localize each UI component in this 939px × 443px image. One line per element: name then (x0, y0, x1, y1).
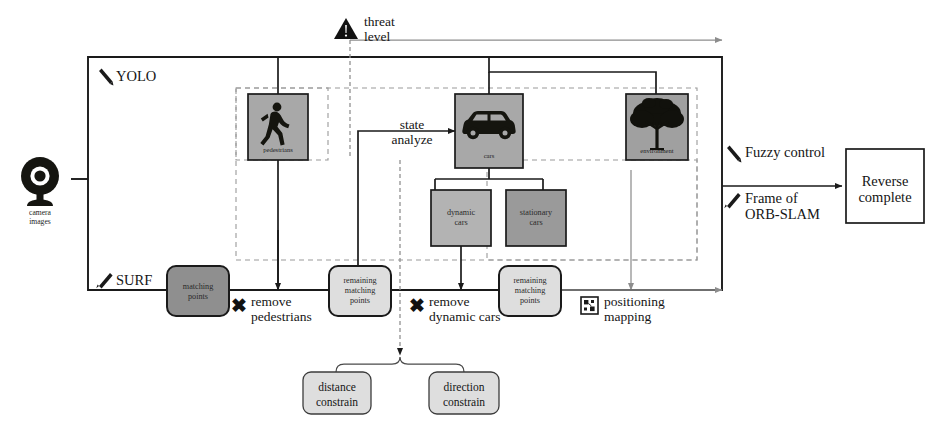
caption-environment: environment (626, 147, 688, 155)
label-frame-of-orb-slam: Frame of ORB-SLAM (745, 190, 820, 222)
label-threat-level: threat level (364, 14, 395, 44)
caption-dynamic-cars: dynamiccars (431, 208, 491, 228)
pen-icon-orb (724, 193, 740, 208)
caption-remaining-matching-points-1: remainingmatchingpoints (329, 276, 391, 306)
pen-icon-yolo (99, 69, 113, 86)
caption-cars: cars (455, 152, 523, 160)
label-positioning-mapping: positioning mapping (604, 294, 665, 324)
caption-remaining-matching-points-2: remainingmatchingpoints (499, 276, 561, 306)
warning-triangle-icon (334, 18, 358, 39)
cross-icon-remove-dynamic-cars: ✖ (409, 296, 425, 315)
label-yolo: YOLO (116, 68, 156, 84)
label-surf: SURF (116, 272, 152, 288)
map-grid-icon (581, 297, 598, 314)
pen-icon-fuzzy (727, 146, 741, 163)
yolo-surf-frame (88, 57, 722, 290)
edge-cars-split (435, 168, 543, 190)
caption-matching-points: matchingpoints (167, 282, 229, 302)
label-remove-pedestrians: remove pedestrians (251, 294, 312, 324)
camera-caption: cameraimages (6, 208, 74, 227)
caption-direction-constrain: directionconstrain (429, 379, 499, 409)
label-fuzzy-control: Fuzzy control (745, 144, 825, 160)
pen-icon-surf (96, 273, 112, 288)
cross-icon-remove-pedestrians: ✖ (231, 296, 247, 315)
label-state-analyze: state analyze (381, 117, 443, 147)
caption-stationary-cars: stationarycars (506, 208, 566, 228)
caption-distance-constrain: distanceconstrain (303, 379, 371, 409)
caption-pedestrians: pedestrians (248, 146, 308, 154)
caption-reverse-complete: Reversecomplete (846, 173, 924, 205)
camera-icon (21, 157, 59, 206)
diagram-canvas: cameraimages YOLO SURF threat level stat… (0, 0, 939, 443)
label-remove-dynamic-cars: remove dynamic cars (429, 294, 501, 324)
